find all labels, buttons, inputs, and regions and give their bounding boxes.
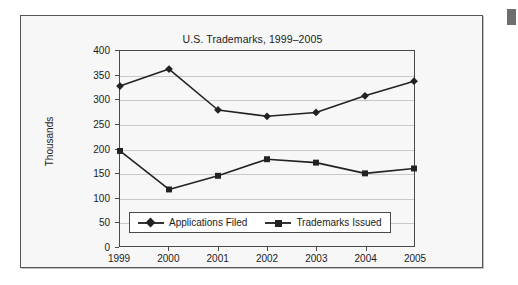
page-root: U.S. Trademarks, 1999–2005 Thousands 050… bbox=[0, 0, 518, 285]
diamond-marker-icon bbox=[138, 218, 164, 228]
diamond-marker-icon bbox=[263, 112, 271, 120]
chart-legend: Applications Filed Trademarks Issued bbox=[129, 212, 391, 233]
y-axis-title: Thousands bbox=[44, 92, 55, 192]
square-marker-icon bbox=[215, 173, 221, 179]
x-tick-label: 1999 bbox=[97, 253, 141, 264]
legend-label-trademarks-issued: Trademarks Issued bbox=[296, 217, 381, 228]
chart-title: U.S. Trademarks, 1999–2005 bbox=[21, 33, 484, 45]
x-tick-mark bbox=[267, 247, 268, 251]
x-tick-mark bbox=[168, 247, 169, 251]
square-marker-icon bbox=[362, 170, 368, 176]
square-marker-icon bbox=[117, 148, 123, 154]
legend-item-trademarks-issued[interactable]: Trademarks Issued bbox=[265, 217, 381, 228]
square-marker-icon bbox=[166, 186, 172, 192]
diamond-marker-icon bbox=[116, 82, 124, 90]
chart-figure-panel: U.S. Trademarks, 1999–2005 Thousands 050… bbox=[20, 15, 483, 268]
legend-item-applications-filed[interactable]: Applications Filed bbox=[138, 217, 247, 228]
series-line-1 bbox=[120, 69, 414, 116]
y-tick-label: 200 bbox=[76, 143, 110, 154]
x-tick-label: 2001 bbox=[196, 253, 240, 264]
y-tick-label: 250 bbox=[76, 118, 110, 129]
page-edge-marker bbox=[507, 9, 516, 25]
y-tick-label: 100 bbox=[76, 192, 110, 203]
x-tick-label: 2003 bbox=[294, 253, 338, 264]
x-tick-mark bbox=[366, 247, 367, 251]
diamond-marker-icon bbox=[312, 109, 320, 117]
square-marker-icon bbox=[264, 156, 270, 162]
y-tick-mark bbox=[115, 247, 119, 248]
y-tick-label: 50 bbox=[76, 217, 110, 228]
diamond-marker-icon bbox=[361, 92, 369, 100]
y-tick-label: 300 bbox=[76, 94, 110, 105]
square-marker-icon bbox=[265, 218, 291, 228]
diamond-marker-icon bbox=[410, 77, 418, 85]
x-tick-label: 2000 bbox=[146, 253, 190, 264]
y-tick-label: 150 bbox=[76, 168, 110, 179]
x-tick-mark bbox=[316, 247, 317, 251]
x-tick-label: 2002 bbox=[245, 253, 289, 264]
y-tick-label: 350 bbox=[76, 69, 110, 80]
y-tick-label: 0 bbox=[76, 242, 110, 253]
y-tick-label: 400 bbox=[76, 45, 110, 56]
square-marker-icon bbox=[411, 166, 417, 172]
square-marker-icon bbox=[313, 160, 319, 166]
x-tick-label: 2005 bbox=[393, 253, 437, 264]
x-tick-mark bbox=[218, 247, 219, 251]
legend-label-applications-filed: Applications Filed bbox=[169, 217, 247, 228]
x-tick-label: 2004 bbox=[344, 253, 388, 264]
